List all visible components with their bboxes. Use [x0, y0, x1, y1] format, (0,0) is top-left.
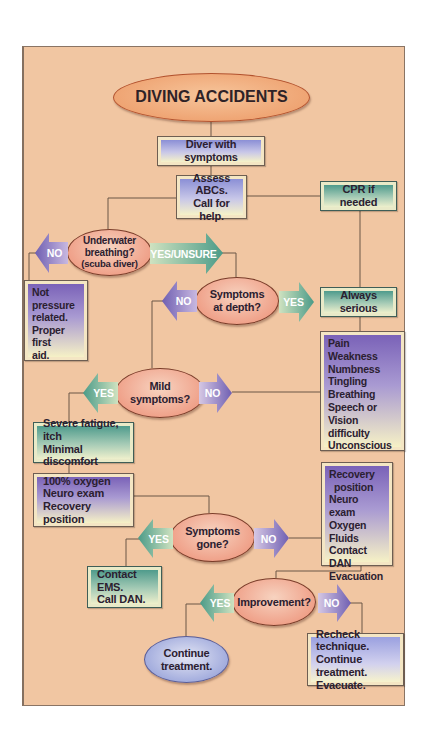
assess-abcs-box: Assess ABCs. Call for help.: [176, 175, 247, 219]
symptom-item: Speech or: [328, 401, 397, 414]
always-serious-box: Always serious: [320, 287, 397, 317]
symptom-item: Vision difficulty: [328, 414, 397, 440]
decision-text: breathing?: [85, 247, 135, 259]
continue-treatment-ellipse: Continue treatment.: [144, 636, 229, 683]
text-line: Recovery position: [43, 500, 124, 525]
yes-arrow-mild: YES: [83, 373, 118, 413]
text-line: Not: [32, 286, 80, 299]
arrow-label: YES: [210, 597, 230, 609]
diver-with-symptoms-text: Diver with symptoms: [166, 138, 256, 163]
contact-ems-box: Contact EMS. Call DAN.: [87, 566, 162, 608]
text-line: Evacuation: [329, 570, 385, 583]
text-line: Continue treatment.: [316, 653, 395, 678]
text-line: Neuro exam: [43, 487, 124, 500]
symptoms-at-depth-decision: Symptoms at depth?: [195, 277, 279, 325]
decision-text: symptoms?: [130, 393, 190, 406]
text-line: treatment.: [161, 660, 212, 673]
decision-text: Symptoms: [210, 288, 265, 301]
arrow-label: YES: [148, 533, 168, 545]
text-line: Contact EMS.: [97, 568, 152, 593]
arrow-label: NO: [261, 533, 276, 545]
decision-subtext: (scuba diver): [81, 258, 138, 270]
yes-arrow-gone: YES: [138, 519, 173, 558]
symptom-item: Numbness: [328, 363, 397, 376]
text-line: Recheck technique.: [316, 628, 395, 653]
text-line: Severe fatigue, itch: [43, 417, 124, 442]
no-arrow-breathing: NO: [35, 233, 68, 273]
arrow-label: NO: [205, 387, 220, 399]
text-line: 100% oxygen: [43, 475, 124, 488]
improvement-decision: Improvement?: [232, 578, 316, 626]
serious-first-aid-box: Recovery position Neuro exam Oxygen Flui…: [321, 462, 393, 566]
text-line: Contact DAN: [329, 544, 385, 569]
text-line: Neuro exam: [329, 493, 385, 518]
underwater-breathing-decision: Underwater breathing? (scuba diver): [67, 229, 152, 276]
text-line: Minimal discomfort: [43, 443, 124, 468]
text-line: Call DAN.: [97, 593, 152, 606]
decision-text: Underwater: [83, 235, 136, 247]
text-line: Recovery: [329, 468, 385, 481]
decision-text: at depth?: [213, 301, 261, 314]
yes-unsure-arrow: YES/UNSURE: [150, 233, 223, 274]
always-serious-text: Always serious: [329, 289, 388, 314]
symptom-item: Unconscious: [328, 439, 397, 452]
decision-text: gone?: [197, 538, 229, 551]
no-arrow-improvement: NO: [318, 584, 351, 622]
title-text: DIVING ACCIDENTS: [135, 91, 287, 104]
decision-text: Mild: [149, 380, 170, 393]
severe-fatigue-box: Severe fatigue, itch Minimal discomfort: [33, 422, 134, 463]
no-arrow-depth: NO: [162, 281, 197, 321]
decision-text: Improvement?: [237, 596, 310, 609]
decision-text: Symptoms: [185, 525, 240, 538]
title-ellipse: DIVING ACCIDENTS: [113, 73, 310, 122]
assess-abcs-line: Assess ABCs.: [182, 172, 241, 197]
text-line: Evacuate.: [316, 679, 395, 692]
symptom-item: Pain: [328, 337, 397, 350]
no-arrow-mild: NO: [199, 373, 232, 413]
recheck-technique-box: Recheck technique. Continue treatment. E…: [307, 633, 404, 686]
text-line: aid.: [32, 349, 80, 362]
symptom-item: Weakness: [328, 350, 397, 363]
call-for-help-line: Call for help.: [182, 197, 241, 222]
arrow-label: NO: [176, 295, 191, 307]
yes-arrow-depth: YES: [279, 282, 314, 322]
arrow-label: YES/UNSURE: [150, 248, 216, 260]
arrow-label: NO: [47, 247, 62, 259]
text-line: Continue: [163, 647, 209, 660]
text-line: related.: [32, 311, 80, 324]
text-line: Fluids: [329, 532, 385, 545]
no-arrow-gone: NO: [254, 519, 289, 558]
mild-first-aid-box: 100% oxygen Neuro exam Recovery position: [33, 473, 134, 527]
text-line: pressure: [32, 299, 80, 312]
text-line: Proper first: [32, 324, 80, 349]
arrow-label: YES: [283, 296, 303, 308]
symptoms-gone-decision: Symptoms gone?: [170, 513, 255, 562]
symptom-item: Breathing: [328, 388, 397, 401]
mild-symptoms-decision: Mild symptoms?: [115, 368, 205, 418]
yes-arrow-improvement: YES: [200, 584, 234, 622]
not-pressure-related-box: Not pressure related. Proper first aid.: [24, 280, 88, 361]
serious-symptoms-box: Pain Weakness Numbness Tingling Breathin…: [320, 331, 405, 451]
arrow-label: NO: [324, 597, 339, 609]
text-line: position: [329, 481, 385, 494]
cpr-if-needed-text: CPR if needed: [329, 183, 388, 208]
arrow-label: YES: [93, 387, 113, 399]
cpr-if-needed-box: CPR if needed: [320, 181, 397, 211]
symptom-item: Tingling: [328, 375, 397, 388]
diver-with-symptoms-box: Diver with symptoms: [157, 136, 265, 166]
text-line: Oxygen: [329, 519, 385, 532]
